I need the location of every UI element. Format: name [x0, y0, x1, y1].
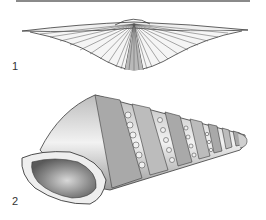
figure-2-label: 2: [12, 195, 18, 207]
figure-1-brachiopod: [22, 19, 248, 70]
figure-1-label: 1: [12, 60, 18, 72]
plate-illustration: [0, 0, 266, 220]
figure-2-gastropod: [22, 95, 247, 204]
